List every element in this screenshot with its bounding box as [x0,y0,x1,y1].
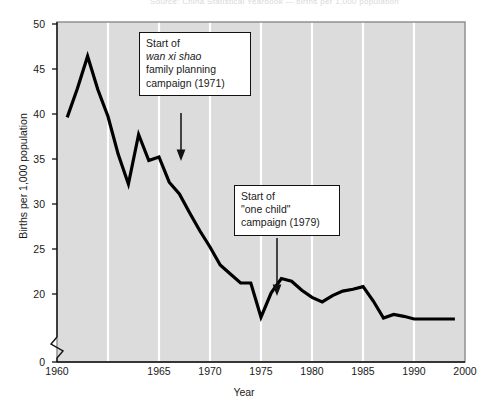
y-tick-label: 20 [5,289,45,299]
annotation-line: family planning [146,63,244,76]
x-tick-label: 2000 [435,366,488,377]
annotation-line: "one child" [241,203,333,216]
annotation-line: Start of [241,190,333,203]
cropped-header-text: Source: China Statistical Yearbook — bir… [150,0,480,6]
annotation-line: campaign (1979) [241,216,333,229]
annotation-line: Start of [146,37,244,50]
y-tick-marks [52,24,57,362]
y-axis-title: Births per 1,000 population [17,76,29,276]
x-axis-title: Year [0,386,488,398]
annotation-callout-wan-xi-shao: Start of wan xi shao family planning cam… [139,32,251,96]
x-tick-label: 1960 [27,366,87,377]
annotation-line: campaign (1971) [146,77,244,90]
annotation-line-italic: wan xi shao [146,50,244,63]
birth-rate-chart-figure: Source: China Statistical Yearbook — bir… [0,0,488,404]
y-tick-label: 50 [5,19,45,29]
y-tick-label: 45 [5,64,45,74]
annotation-callout-one-child: Start of "one child" campaign (1979) [234,185,340,236]
